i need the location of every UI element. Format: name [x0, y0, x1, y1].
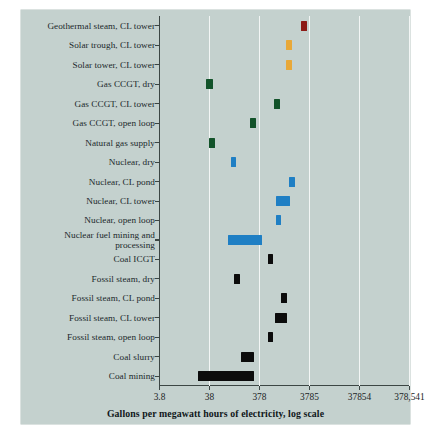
y-axis-label: Fossil steam, CL tower [69, 313, 155, 323]
x-axis-tick [209, 386, 210, 390]
bar-range [268, 332, 273, 342]
bar-range [281, 293, 287, 303]
bar-range [301, 21, 307, 31]
chart-panel: Geothermal steam, CL towerSolar trough, … [21, 10, 410, 424]
y-axis-tick [155, 103, 159, 104]
x-gridline [209, 16, 211, 386]
y-axis-label: Gas CCGT, open loop [73, 118, 155, 128]
x-axis-tick [359, 386, 360, 390]
y-axis-label: Nuclear fuel mining and processing [43, 230, 155, 250]
y-axis-tick [155, 337, 159, 338]
bar-range [286, 60, 292, 70]
x-gridline [409, 16, 411, 386]
y-axis-tick [155, 220, 159, 221]
bar-range [231, 157, 237, 167]
x-gridline [309, 16, 311, 386]
y-axis-label: Gas CCGT, CL tower [74, 99, 155, 109]
bar-range [276, 215, 281, 225]
y-axis-tick [155, 298, 159, 299]
y-axis-label: Coal ICGT [113, 254, 155, 264]
plot-area [159, 16, 410, 386]
y-axis-label: Fossil steam, open loop [67, 332, 155, 342]
y-axis-label: Coal mining [109, 371, 155, 381]
y-axis-tick [155, 376, 159, 377]
bar-range [234, 274, 240, 284]
y-axis-label: Fossil steam, dry [92, 274, 155, 284]
x-gridline [359, 16, 361, 386]
y-axis-tick [155, 142, 159, 143]
bar-range [274, 99, 280, 109]
y-axis-tick [155, 317, 159, 318]
x-axis-tick-label: 378 [252, 392, 266, 402]
x-axis-title: Gallons per megawatt hours of electricit… [21, 408, 410, 419]
x-axis-tick-label: 3785 [300, 392, 319, 402]
y-axis-line [159, 16, 160, 386]
y-axis-label: Solar tower, CL tower [73, 60, 156, 70]
bar-range [206, 79, 212, 89]
bar-range [276, 196, 290, 206]
x-axis-tick-label: 3.8 [154, 392, 166, 402]
bar-range [228, 235, 262, 245]
y-axis-label: Coal slurry [113, 352, 155, 362]
y-axis-label: Natural gas supply [85, 138, 155, 148]
y-axis-tick [155, 123, 159, 124]
y-axis-label: Fossil steam, CL pond [72, 293, 155, 303]
bar-range [275, 313, 286, 323]
x-axis-tick-label: 38 [205, 392, 214, 402]
y-axis-tick [155, 64, 159, 65]
y-axis-label: Geothermal steam, CL tower [47, 21, 155, 31]
x-axis-line [159, 385, 410, 386]
y-axis-tick [155, 278, 159, 279]
x-axis-tick [409, 386, 410, 390]
y-axis-label: Nuclear, dry [109, 157, 155, 167]
bar-range [250, 118, 256, 128]
y-axis-label: Gas CCGT, dry [97, 79, 155, 89]
y-axis-tick [155, 25, 159, 26]
y-axis-tick [155, 181, 159, 182]
y-axis-label: Nuclear, CL pond [89, 177, 155, 187]
x-axis-tick [259, 386, 260, 390]
bar-range [286, 40, 292, 50]
x-axis-tick [159, 386, 160, 390]
y-axis-tick [155, 201, 159, 202]
y-axis-label: Nuclear, open loop [84, 215, 155, 225]
bar-range [198, 371, 254, 381]
y-axis-tick [155, 84, 159, 85]
y-axis-tick [155, 162, 159, 163]
y-axis-label: Solar trough, CL tower [69, 40, 155, 50]
x-axis-tick-label: 378,541 [394, 392, 424, 402]
bar-range [209, 138, 216, 148]
y-axis-tick [155, 259, 159, 260]
y-axis-tick [155, 239, 159, 240]
x-axis-tick [309, 386, 310, 390]
bar-range [241, 352, 254, 362]
y-axis-label: Nuclear, CL tower [86, 196, 155, 206]
bar-range [268, 254, 273, 264]
x-axis-tick-label: 37854 [348, 392, 371, 402]
y-axis-tick [155, 45, 159, 46]
y-axis-tick [155, 356, 159, 357]
x-gridline [259, 16, 261, 386]
bar-range [289, 177, 295, 187]
y-axis-category-labels: Geothermal steam, CL towerSolar trough, … [33, 16, 155, 386]
